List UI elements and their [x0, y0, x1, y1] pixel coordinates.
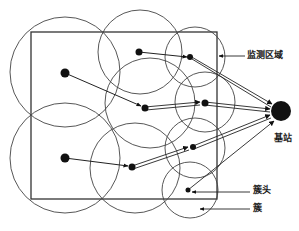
cluster-label: 簇 — [253, 204, 262, 213]
cluster-head-node — [187, 54, 193, 60]
cluster-circle-4 — [105, 58, 195, 148]
cluster-head-label: 簇头 — [253, 186, 271, 195]
cluster-circle-3 — [165, 27, 225, 87]
cluster-circles — [10, 10, 235, 218]
monitoring-area-label: 监测区域 — [247, 51, 283, 60]
member-links — [65, 52, 187, 166]
sensor-node — [61, 154, 70, 163]
member-nodes — [61, 49, 143, 163]
base-station-node — [271, 101, 291, 121]
sensor-node — [136, 49, 143, 56]
wsn-cluster-diagram — [0, 0, 299, 231]
cluster-head-routes — [132, 56, 274, 190]
cluster-head-node — [142, 105, 149, 112]
cluster-head-node — [190, 144, 196, 150]
cluster-head-node — [186, 188, 191, 193]
base-station-label: 基站 — [274, 134, 292, 143]
cluster-head-node — [202, 100, 209, 107]
sensor-node — [61, 69, 70, 78]
cluster-head-node — [129, 164, 136, 171]
